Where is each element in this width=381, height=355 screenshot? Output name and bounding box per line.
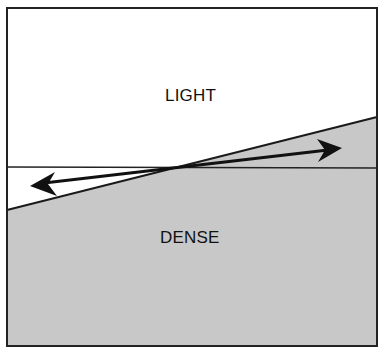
dense-region-label: DENSE (160, 228, 220, 248)
diagram-canvas (0, 0, 381, 355)
light-region-label: LIGHT (165, 86, 216, 106)
